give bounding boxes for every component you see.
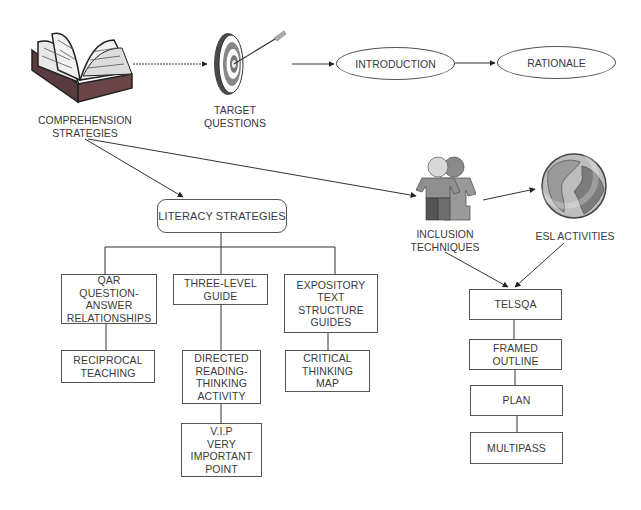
critical-thinking-map-label: CRITICAL THINKING MAP [302, 352, 353, 390]
target-questions-label: TARGET QUESTIONS [200, 104, 270, 129]
plan-label: PLAN [503, 394, 531, 407]
three-level-guide-node: THREE-LEVEL GUIDE [173, 274, 268, 305]
target-dartboard-icon [210, 26, 290, 96]
qar-node: QAR QUESTION- ANSWER RELATIONSHIPS [61, 274, 157, 324]
expository-text-node: EXPOSITORY TEXT STRUCTURE GUIDES [284, 274, 378, 333]
multipass-label: MULTIPASS [487, 442, 546, 455]
two-people-icon [416, 154, 476, 222]
rationale-node: RATIONALE [497, 46, 616, 79]
vip-label: V.I.P VERY IMPORTANT POINT [191, 425, 253, 475]
multipass-node: MULTIPASS [470, 432, 563, 464]
open-book-icon [28, 26, 138, 108]
literacy-strategies-label: LITERACY STRATEGIES [158, 210, 285, 223]
qar-label: QAR QUESTION- ANSWER RELATIONSHIPS [67, 274, 152, 324]
vip-node: V.I.P VERY IMPORTANT POINT [181, 423, 262, 477]
introduction-node: INTRODUCTION [336, 47, 455, 80]
introduction-label: INTRODUCTION [355, 58, 436, 70]
literacy-strategies-node: LITERACY STRATEGIES [157, 199, 287, 233]
concept-map: COMPREHENSION STRATEGIES TARGET QUESTION… [0, 0, 641, 510]
expository-text-label: EXPOSITORY TEXT STRUCTURE GUIDES [297, 279, 366, 329]
three-level-guide-label: THREE-LEVEL GUIDE [184, 277, 257, 302]
esl-activities-label: ESL ACTIVITIES [525, 230, 625, 243]
framed-outline-node: FRAMED OUTLINE [469, 339, 562, 370]
rationale-label: RATIONALE [527, 57, 586, 69]
critical-thinking-map-node: CRITICAL THINKING MAP [285, 350, 370, 392]
directed-reading-thinking-label: DIRECTED READING- THINKING ACTIVITY [194, 352, 248, 402]
directed-reading-thinking-node: DIRECTED READING- THINKING ACTIVITY [182, 350, 261, 404]
reciprocal-teaching-label: RECIPROCAL TEACHING [73, 354, 142, 379]
reciprocal-teaching-node: RECIPROCAL TEACHING [61, 350, 155, 383]
inclusion-techniques-label: INCLUSION TECHNIQUES [405, 228, 485, 253]
telsqa-node: TELSQA [469, 289, 562, 320]
plan-node: PLAN [470, 385, 563, 416]
globe-icon [540, 152, 608, 220]
framed-outline-label: FRAMED OUTLINE [492, 342, 538, 367]
telsqa-label: TELSQA [494, 298, 536, 311]
comprehension-strategies-label: COMPREHENSION STRATEGIES [30, 114, 140, 139]
